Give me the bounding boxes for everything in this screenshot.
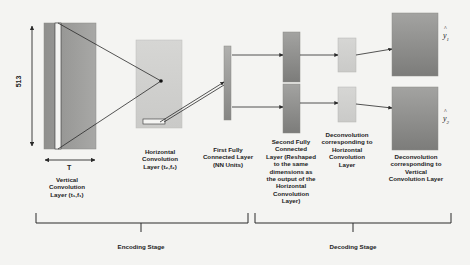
- horizontal-conv-label: Horizontal Convolution Layer (t₂,f₂): [134, 148, 186, 170]
- encoding-stage-label: Encoding Stage: [106, 243, 176, 250]
- second-fc-label: Second Fully Connected Layer (Reshaped t…: [266, 138, 316, 205]
- deconv-horizontal-box-1: [338, 38, 356, 72]
- first-fc-box: [224, 46, 231, 120]
- width-dimension-label: T: [67, 164, 71, 171]
- output-box-1: [392, 13, 438, 76]
- deconv-to-output-arrow-2: [356, 104, 392, 108]
- second-fc-box-2: [283, 84, 300, 133]
- output-label-y2: ^y2: [443, 114, 449, 125]
- decoding-stage-bracket: [255, 213, 451, 223]
- output-label-y1: ^y1: [443, 31, 449, 42]
- horizontal-filter-strip: [143, 119, 165, 124]
- second-fc-box-1: [283, 32, 300, 82]
- projection-point: [159, 79, 163, 83]
- encoding-stage-bracket: [36, 213, 248, 223]
- output-box-2: [392, 87, 438, 150]
- deconv-to-output-arrow-1: [356, 49, 392, 55]
- input-spectrogram-box: [44, 23, 96, 149]
- deconv-horizontal-label: Deconvolution corresponding to Horizonta…: [320, 131, 374, 168]
- first-fc-label: First Fully Connected Layer (NN Units): [200, 146, 256, 168]
- vertical-filter-strip: [55, 23, 61, 149]
- diagram-canvas: [0, 0, 470, 265]
- deconv-horizontal-box-2: [338, 87, 356, 122]
- height-dimension-label: 513: [15, 76, 22, 88]
- deconv-vertical-label: Deconvolution corresponding to Vertical …: [387, 153, 445, 183]
- decoding-stage-label: Decoding Stage: [318, 243, 388, 250]
- vertical-conv-label: Vertical Convolution Layer (t₁,f₁): [41, 176, 93, 198]
